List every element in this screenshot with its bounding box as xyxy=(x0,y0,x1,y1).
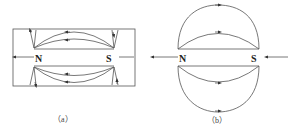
caption-a: （a） xyxy=(53,115,73,124)
figure-a xyxy=(13,29,135,86)
figure-b xyxy=(152,5,288,112)
magnetic-field-diagram: N S （a） N S （b） xyxy=(0,0,297,132)
diagram-svg: N S （a） N S （b） xyxy=(0,0,297,132)
north-label-b: N xyxy=(179,53,187,64)
south-label-b: S xyxy=(251,53,257,64)
north-label-a: N xyxy=(35,53,43,64)
caption-b: （b） xyxy=(207,116,227,125)
south-label-a: S xyxy=(106,53,112,64)
